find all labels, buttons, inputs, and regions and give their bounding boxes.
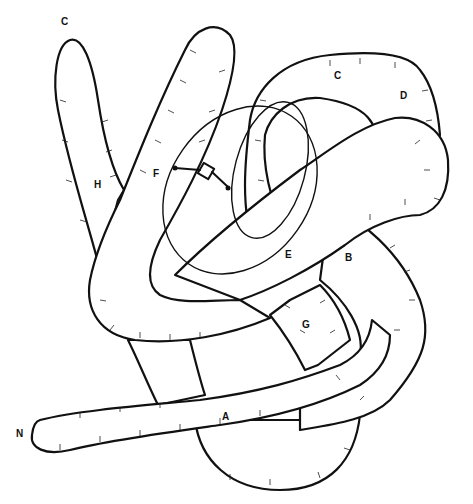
label-g: G — [302, 319, 310, 330]
label-a: A — [222, 411, 229, 422]
label-c-top-left: C — [61, 16, 68, 27]
label-d: D — [400, 90, 407, 101]
marker-dot-left — [173, 166, 178, 171]
tube-diagram — [0, 0, 473, 504]
segment-a-lower-loop — [195, 415, 360, 490]
label-e: E — [285, 249, 292, 260]
segment-lower-tubes — [128, 340, 205, 405]
label-f: F — [153, 168, 159, 179]
marker-line-right — [212, 172, 228, 187]
label-n: N — [16, 428, 23, 439]
label-b: B — [345, 252, 352, 263]
label-c-top-right: C — [334, 70, 341, 81]
label-h: H — [94, 179, 101, 190]
marker-dot-right — [226, 186, 231, 191]
